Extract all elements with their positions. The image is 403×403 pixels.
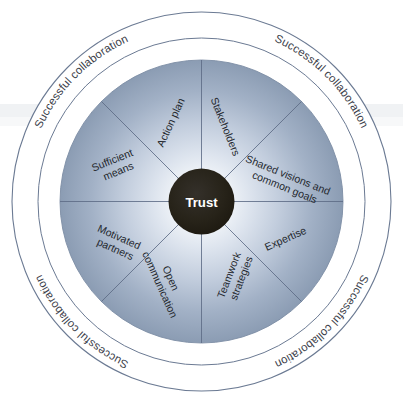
trust-hub-label: Trust [185, 195, 218, 210]
wheel-svg: Trust Successful collaboration Successfu… [0, 0, 403, 403]
collaboration-wheel-diagram: Trust Successful collaboration Successfu… [0, 0, 403, 403]
